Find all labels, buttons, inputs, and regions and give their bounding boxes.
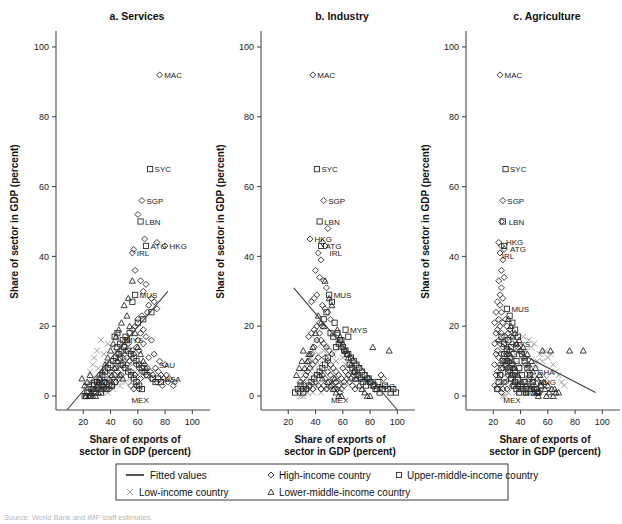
plot-area: MACSYCSGPLBNHKGATGIRLMUSMYSGHAPNGAGOMEX <box>492 71 596 405</box>
data-point <box>333 369 339 375</box>
data-point <box>127 323 133 328</box>
point-label-MUS: MUS <box>334 291 352 300</box>
data-point <box>323 285 329 291</box>
data-point <box>322 306 328 312</box>
panel-title-industry: b. Industry <box>315 10 369 22</box>
data-point <box>299 358 305 363</box>
point-label-PRT: PRT <box>91 378 107 387</box>
data-point <box>378 372 384 378</box>
y-tick-label: 40 <box>39 252 49 262</box>
data-point <box>132 267 138 273</box>
point-label-SYC: SYC <box>155 165 172 174</box>
x-tick-label: 20 <box>78 417 88 427</box>
point-label-SGP: SGP <box>328 197 345 206</box>
data-point <box>531 341 537 347</box>
data-point <box>343 362 349 368</box>
data-point <box>300 348 306 353</box>
data-point <box>94 348 100 354</box>
data-point <box>500 295 506 301</box>
data-point <box>87 372 93 377</box>
data-point <box>129 278 135 283</box>
source-note: Source: World Bank and IMF staff estimat… <box>4 513 153 522</box>
data-point <box>296 365 302 370</box>
point-label-LBN: LBN <box>324 218 340 227</box>
data-point <box>328 362 334 368</box>
y-tick-label: 0 <box>249 391 254 401</box>
data-point <box>500 198 506 204</box>
data-point <box>498 267 504 273</box>
panel-services: a. Services02040608010020406080100MACSYC… <box>34 10 210 457</box>
panel-title-services: a. Services <box>110 10 165 22</box>
data-point <box>313 330 319 335</box>
point-label-IRL: IRL <box>502 252 515 261</box>
x-tick-label: 100 <box>185 417 200 427</box>
y-tick-label: 20 <box>39 321 49 331</box>
data-point <box>143 281 149 287</box>
data-point <box>101 351 107 357</box>
legend-label: Upper-middle-income country <box>407 470 538 481</box>
data-point <box>340 355 346 361</box>
point-label-SAU: SAU <box>159 361 176 370</box>
data-point <box>317 219 322 224</box>
scatter-figure: a. Services02040608010020406080100MACSYC… <box>0 0 622 524</box>
x-tick-label: 20 <box>488 417 498 427</box>
y-tick-label: 100 <box>444 42 459 52</box>
data-point <box>386 348 392 353</box>
data-point <box>121 302 127 307</box>
data-point <box>543 393 549 398</box>
point-label-MEX: MEX <box>131 396 149 405</box>
data-point <box>127 358 133 364</box>
data-point <box>561 383 567 389</box>
data-point <box>329 302 335 307</box>
y-axis-title: Share of sector in GDP (percent) <box>9 144 20 298</box>
data-point <box>503 167 508 172</box>
legend-label: Fitted values <box>150 470 207 481</box>
data-point <box>321 198 327 204</box>
x-tick-label: 40 <box>106 417 116 427</box>
point-label-SYC: SYC <box>510 165 527 174</box>
point-label-USA: USA <box>164 375 181 384</box>
legend-label: High-income country <box>279 470 371 481</box>
y-tick-label: 80 <box>244 112 254 122</box>
x-tick-label: 60 <box>133 417 143 427</box>
data-point <box>328 316 334 322</box>
point-label-SGP: SGP <box>146 197 163 206</box>
data-point <box>138 278 144 284</box>
data-point <box>567 348 573 353</box>
data-point <box>504 306 509 311</box>
data-point <box>580 348 586 353</box>
point-label-MEX: MEX <box>331 396 349 405</box>
data-point <box>116 327 122 332</box>
plot-area: MACSYCSGPLBNHKGATGIRLMUSMYSCHNAGOMEX <box>292 71 398 410</box>
data-point <box>334 327 340 332</box>
y-tick-label: 100 <box>239 42 254 52</box>
data-point <box>118 320 124 325</box>
data-point <box>138 351 144 356</box>
data-point <box>314 167 319 172</box>
data-point <box>153 365 159 371</box>
point-label-AGO: AGO <box>524 389 542 398</box>
data-point <box>318 257 324 263</box>
data-point <box>125 295 131 300</box>
legend-label: Low-income country <box>139 487 228 498</box>
data-point <box>139 198 145 204</box>
data-point <box>325 309 331 315</box>
data-point <box>319 302 325 308</box>
point-label-LBN: LBN <box>509 218 525 227</box>
data-point <box>337 334 343 339</box>
data-point <box>496 239 502 245</box>
y-tick-label: 60 <box>244 182 254 192</box>
point-label-SGP: SGP <box>507 197 524 206</box>
data-point <box>151 351 157 357</box>
x-axis-title-line2: sector in GDP (percent) <box>489 446 601 457</box>
data-point <box>314 292 320 298</box>
data-point <box>497 302 503 308</box>
point-label-CHN: CHN <box>351 375 369 384</box>
data-point <box>539 358 545 364</box>
data-point <box>346 334 351 339</box>
data-point <box>98 337 104 343</box>
point-label-MAC: MAC <box>164 71 182 80</box>
point-label-MAC: MAC <box>505 71 523 80</box>
point-label-ATG: ATG <box>151 242 167 251</box>
panel-agriculture: c. Agriculture02040608010020406080100MAC… <box>444 10 620 457</box>
